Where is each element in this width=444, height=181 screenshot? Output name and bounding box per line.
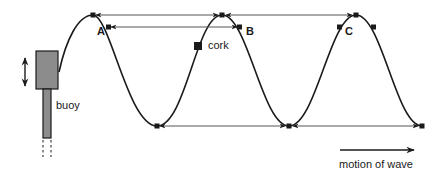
point-b-marker (237, 25, 242, 30)
point-c-marker (337, 25, 342, 30)
label-motion-of-wave: motion of wave (339, 158, 413, 170)
label-point-a: A (97, 25, 105, 37)
label-point-c: C (345, 25, 353, 37)
label-point-b: B (246, 25, 254, 37)
label-cork: cork (208, 39, 229, 51)
point-markers (91, 13, 425, 129)
point-a-marker (106, 25, 111, 30)
cork-icon (194, 42, 202, 50)
wave-diagram (0, 0, 444, 181)
buoy-icon (36, 51, 58, 157)
wave-curve (59, 15, 422, 126)
label-buoy: buoy (56, 99, 80, 111)
